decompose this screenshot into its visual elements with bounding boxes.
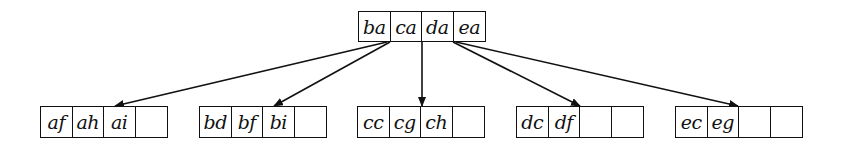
root-key-cell: ba [359, 12, 391, 41]
leaf-key-cell: bd [200, 107, 232, 137]
edge-arrow-leaf-1 [274, 42, 390, 106]
leaf-empty-cell [612, 107, 643, 137]
leaf-empty-cell [580, 107, 612, 137]
leaf-key-cell: af [41, 107, 73, 137]
edge-arrow-leaf-3 [453, 42, 580, 106]
edge-arrow-leaf-4 [456, 42, 738, 106]
b-tree-diagram: ba ca da ea af ah ai bd bf bi cc cg ch d… [0, 0, 847, 153]
leaf-empty-cell [771, 107, 802, 137]
leaf-empty-cell [739, 107, 771, 137]
edge-arrow-leaf-0 [115, 42, 387, 106]
leaf-key-cell: bf [232, 107, 264, 137]
leaf-node-1: af ah ai [40, 106, 168, 138]
leaf-key-cell: dc [517, 107, 549, 137]
leaf-key-cell: ai [104, 107, 136, 137]
leaf-key-cell: bi [263, 107, 295, 137]
leaf-node-2: bd bf bi [199, 106, 327, 138]
leaf-empty-cell [295, 107, 326, 137]
leaf-empty-cell [136, 107, 167, 137]
leaf-node-5: ec eg [675, 106, 803, 138]
leaf-node-4: dc df [516, 106, 644, 138]
leaf-key-cell: cg [390, 107, 422, 137]
root-node: ba ca da ea [358, 11, 486, 42]
leaf-key-cell: eg [708, 107, 740, 137]
leaf-key-cell: df [549, 107, 581, 137]
leaf-key-cell: ec [676, 107, 708, 137]
leaf-node-3: cc cg ch [357, 106, 485, 138]
root-key-cell: da [422, 12, 454, 41]
leaf-key-cell: cc [358, 107, 390, 137]
leaf-key-cell: ch [421, 107, 453, 137]
leaf-key-cell: ah [73, 107, 105, 137]
root-key-cell: ca [391, 12, 423, 41]
root-key-cell: ea [454, 12, 485, 41]
leaf-empty-cell [453, 107, 484, 137]
